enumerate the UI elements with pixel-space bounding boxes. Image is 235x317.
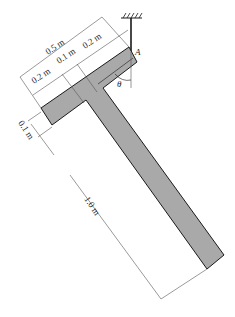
crossbar-thickness-label: 0.1 m xyxy=(16,119,36,142)
left-segment-label: 0.2 m xyxy=(30,66,53,86)
right-segment-label: 0.2 m xyxy=(81,31,104,51)
point-a-label: A xyxy=(134,47,141,57)
t-bar-body xyxy=(41,47,224,269)
ceiling-support-icon xyxy=(121,13,142,18)
t-bar-diagram: 0.5 m 0.2 m 0.1 m 0.2 m 0.1 m 1.0 m A θ xyxy=(0,0,235,317)
theta-label: θ xyxy=(117,79,122,89)
stem-length-label: 1.0 m xyxy=(82,195,102,218)
